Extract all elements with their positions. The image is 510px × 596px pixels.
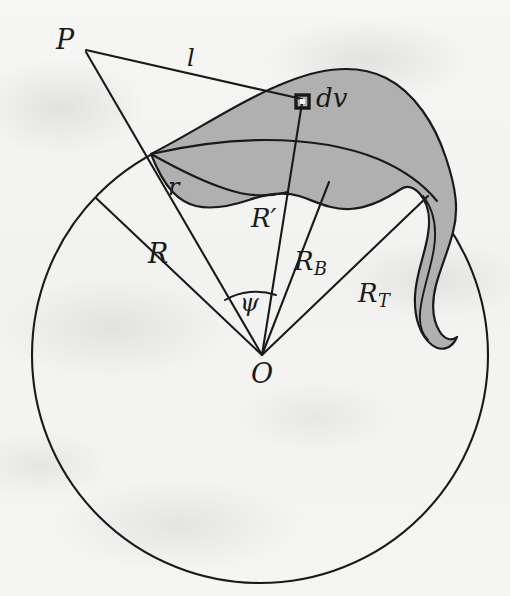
label-segment-R-T: RT xyxy=(358,280,390,311)
label-angle-psi: ψ xyxy=(240,291,259,315)
label-R-B-main: R xyxy=(294,246,314,276)
figure-container: P l dv r R′ R RB RT ψ O xyxy=(0,0,510,596)
label-dv: dv xyxy=(316,85,347,111)
label-segment-r: r xyxy=(168,175,179,199)
label-point-O: O xyxy=(251,360,273,387)
label-segment-R-prime: R′ xyxy=(251,205,276,231)
label-R-T-sub: T xyxy=(378,291,390,311)
cloud-layer-shaded-region xyxy=(151,69,457,349)
segment-R-line xyxy=(96,198,262,355)
label-R-B-sub: B xyxy=(314,259,327,279)
label-segment-R: R xyxy=(148,240,168,267)
label-point-P: P xyxy=(56,26,74,53)
dv-volume-element-marker-inner xyxy=(300,99,305,104)
label-R-T-main: R xyxy=(358,278,378,308)
label-segment-R-B: RB xyxy=(294,248,327,279)
segment-R-T-line xyxy=(262,196,428,355)
label-segment-l: l xyxy=(187,46,195,70)
